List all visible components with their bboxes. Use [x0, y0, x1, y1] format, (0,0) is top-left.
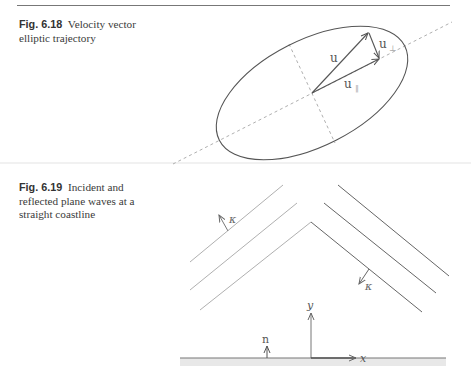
u-perp-label: u [379, 37, 387, 51]
u-label: u [330, 51, 338, 65]
y-axis-label: y [306, 299, 314, 312]
reflected-wave-crest [324, 203, 436, 293]
u-parallel-label: u [344, 77, 352, 91]
coastline-land-band [180, 358, 446, 366]
minor-axis-dashed [289, 44, 335, 143]
figure-6-18-ellipse-diagram: u u ‖ u ⊥ κ κ y x n [0, 0, 471, 380]
normal-label: n [262, 333, 269, 346]
reflected-wave-crest [338, 185, 449, 276]
u-perp-vector-arrow [369, 33, 379, 58]
kappa-reflected-label: κ [364, 280, 373, 293]
u-vector-arrow [312, 33, 368, 93]
figure-6-19-wave-diagram: κ κ y x n [180, 185, 449, 366]
reflected-wave-crest [311, 222, 422, 312]
u-parallel-subscript: ‖ [355, 84, 359, 93]
kappa-incident-label: κ [228, 213, 237, 226]
u-perp-subscript: ⊥ [389, 44, 397, 53]
incident-wave-crest [200, 222, 311, 310]
kappa-incident-arrow [219, 215, 228, 231]
x-axis-label: x [360, 352, 367, 365]
incident-wave-crest [190, 203, 297, 290]
incident-wave-crest [190, 185, 283, 262]
